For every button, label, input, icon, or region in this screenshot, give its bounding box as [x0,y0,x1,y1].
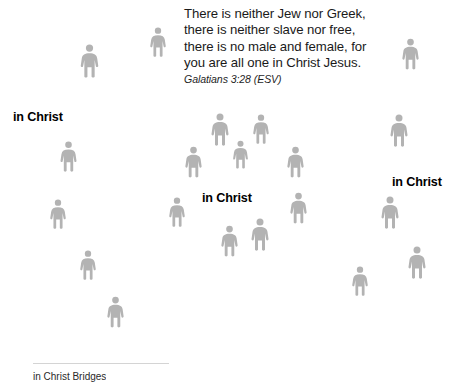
in-christ-label: in Christ [13,110,63,124]
person-icon [78,44,101,78]
person-icon [288,192,309,224]
person-icon [251,114,271,144]
slide-canvas: There is neither Jew nor Greek, there is… [0,0,460,383]
in-christ-label: in Christ [202,191,252,205]
person-icon [209,113,231,146]
scripture-attribution: Galatians 3:28 (ESV) [184,73,394,86]
person-icon [48,199,68,229]
footer-note: in Christ Bridges [33,371,106,383]
person-icon [400,38,421,70]
person-icon [105,296,126,328]
person-icon [406,246,428,279]
person-icon [379,196,401,229]
person-icon [249,218,271,251]
person-icon [350,266,370,296]
in-christ-label: in Christ [392,175,442,189]
person-icon [148,27,168,57]
person-icon [183,146,204,178]
person-icon [219,225,240,257]
person-icon [388,114,410,147]
person-icon [285,146,306,178]
person-icon [167,197,187,227]
person-icon [231,140,250,169]
footer-divider [33,363,169,364]
person-icon [78,250,98,280]
scripture-quote-text: There is neither Jew nor Greek, there is… [184,6,394,72]
scripture-quote-block: There is neither Jew nor Greek, there is… [184,6,394,86]
person-icon [58,141,79,172]
